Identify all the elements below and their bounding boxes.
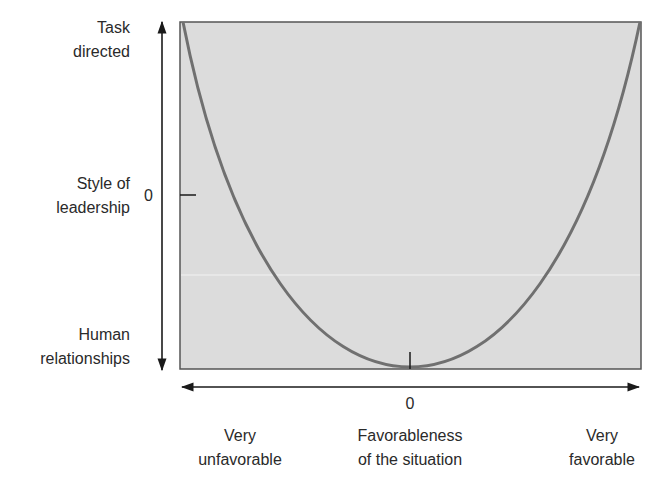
x-label-very-unfavorable: Very unfavorable <box>185 426 295 470</box>
label-line: Style of <box>56 174 130 194</box>
label-line: Human <box>40 325 130 345</box>
label-line: relationships <box>40 349 130 369</box>
label-line: Very <box>185 426 295 446</box>
y-zero-label: 0 <box>144 186 153 206</box>
y-label-task-directed: Task directed <box>73 18 130 62</box>
label-line: Favorableness <box>330 426 490 446</box>
label-line: of the situation <box>330 450 490 470</box>
label-line: favorable <box>550 450 654 470</box>
label-line: unfavorable <box>185 450 295 470</box>
plot-area <box>180 22 641 369</box>
y-label-style-of-leadership: Style of leadership <box>56 174 130 218</box>
chart-canvas <box>0 0 654 479</box>
x-zero-label: 0 <box>400 394 420 414</box>
label-line: directed <box>73 42 130 62</box>
label-line: Task <box>73 18 130 38</box>
x-axis-title: Favorableness of the situation <box>330 426 490 470</box>
y-label-human-relationships: Human relationships <box>40 325 130 369</box>
label-line: Very <box>550 426 654 446</box>
label-line: leadership <box>56 198 130 218</box>
x-label-very-favorable: Very favorable <box>550 426 654 470</box>
